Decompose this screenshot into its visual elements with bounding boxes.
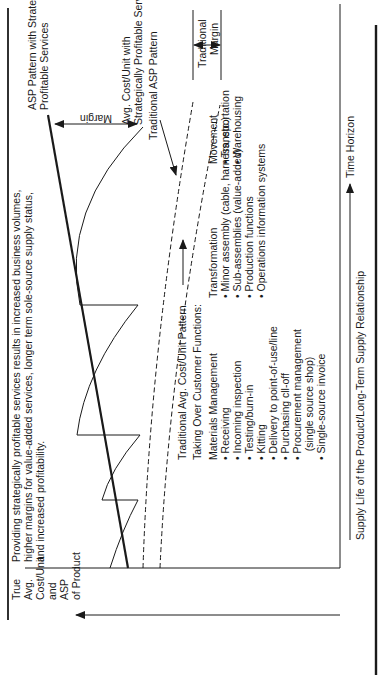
svg-text:and: and: [46, 582, 58, 600]
svg-text:• Production functions: • Production functions: [243, 196, 255, 298]
svg-text:Avg.: Avg.: [22, 579, 34, 600]
svg-text:Movement: Movement: [207, 115, 219, 164]
svg-text:Avg. Cost/Unit with: Avg. Cost/Unit with: [120, 36, 132, 125]
svg-text:• Single-source invoice: • Single-source invoice: [315, 353, 327, 460]
traditional-margin-label: Traditional Margin: [196, 19, 220, 68]
svg-text:• Procurement management: • Procurement management: [291, 329, 303, 460]
svg-text:Margin: Margin: [208, 23, 220, 55]
svg-text:• Delivery to point-of-use/lin: • Delivery to point-of-use/line: [267, 326, 279, 460]
svg-text:higher margins for value-added: higher margins for value-added services,…: [22, 192, 34, 562]
time-horizon-label: Time Horizon: [344, 116, 356, 178]
svg-text:True: True: [10, 579, 22, 600]
margin-label: Margin: [80, 113, 112, 125]
traditional-cost-line: [160, 105, 220, 568]
svg-text:Providing strategically profit: Providing strategically profitable servi…: [10, 190, 22, 562]
svg-text:• Incoming inspection: • Incoming inspection: [231, 360, 243, 460]
traditional-cost-label: Traditional Avg. Cost/Unit Pattern: [176, 305, 188, 460]
movement-list: Movement • Transportation • Warehousing: [207, 90, 243, 164]
cost-strategic-curve: [76, 127, 143, 568]
svg-text:• Kitting: • Kitting: [255, 424, 267, 460]
x-axis-label: Supply Life of the Product/Long-Term Sup…: [354, 271, 366, 540]
svg-text:Strategically Profitable Servi: Strategically Profitable Services: [132, 0, 144, 125]
svg-text:• Operations information syste: • Operations information systems: [255, 144, 267, 298]
rotated-diagram: Margin True Avg. Cost/Unit and ASP of Pr…: [0, 0, 385, 680]
svg-text:• Testing/burn-in: • Testing/burn-in: [243, 385, 255, 460]
asp-strategic-label: ASP Pattern with Strategically Profitabl…: [26, 0, 50, 110]
svg-text:of Product: of Product: [70, 552, 82, 600]
svg-text:• Sub-assemblies (value-added): • Sub-assemblies (value-added): [231, 149, 243, 298]
svg-text:• Transportation: • Transportation: [219, 90, 231, 164]
svg-text:Profitable Services: Profitable Services: [38, 22, 50, 110]
svg-text:Transformation: Transformation: [207, 228, 219, 298]
svg-text:and increased profitability.: and increased profitability.: [34, 441, 46, 562]
functions-heading: Taking Over Customer Functions:: [191, 304, 203, 460]
svg-text:• Purchasing cll-off: • Purchasing cll-off: [279, 373, 291, 460]
svg-text:ASP Pattern with Strategically: ASP Pattern with Strategically: [26, 0, 38, 110]
summary-text: Providing strategically profitable servi…: [10, 190, 46, 562]
svg-text:• Receiving: • Receiving: [219, 407, 231, 460]
cost-strategic-label: Avg. Cost/Unit with Strategically Profit…: [120, 0, 144, 125]
materials-management-list: Materials Management • Receiving • Incom…: [207, 326, 327, 460]
traditional-asp-pointer-icon: [160, 120, 176, 175]
svg-text:• Warehousing: • Warehousing: [231, 96, 243, 164]
svg-text:(single source shop): (single source shop): [303, 357, 315, 460]
diagram-canvas: Margin True Avg. Cost/Unit and ASP of Pr…: [0, 0, 385, 680]
svg-text:Materials Management: Materials Management: [207, 353, 219, 460]
svg-text:ASP: ASP: [58, 579, 70, 600]
svg-text:Cost/Unit: Cost/Unit: [34, 557, 46, 600]
traditional-asp-label: Traditional ASP Pattern: [147, 31, 159, 140]
svg-text:Traditional: Traditional: [196, 19, 208, 68]
